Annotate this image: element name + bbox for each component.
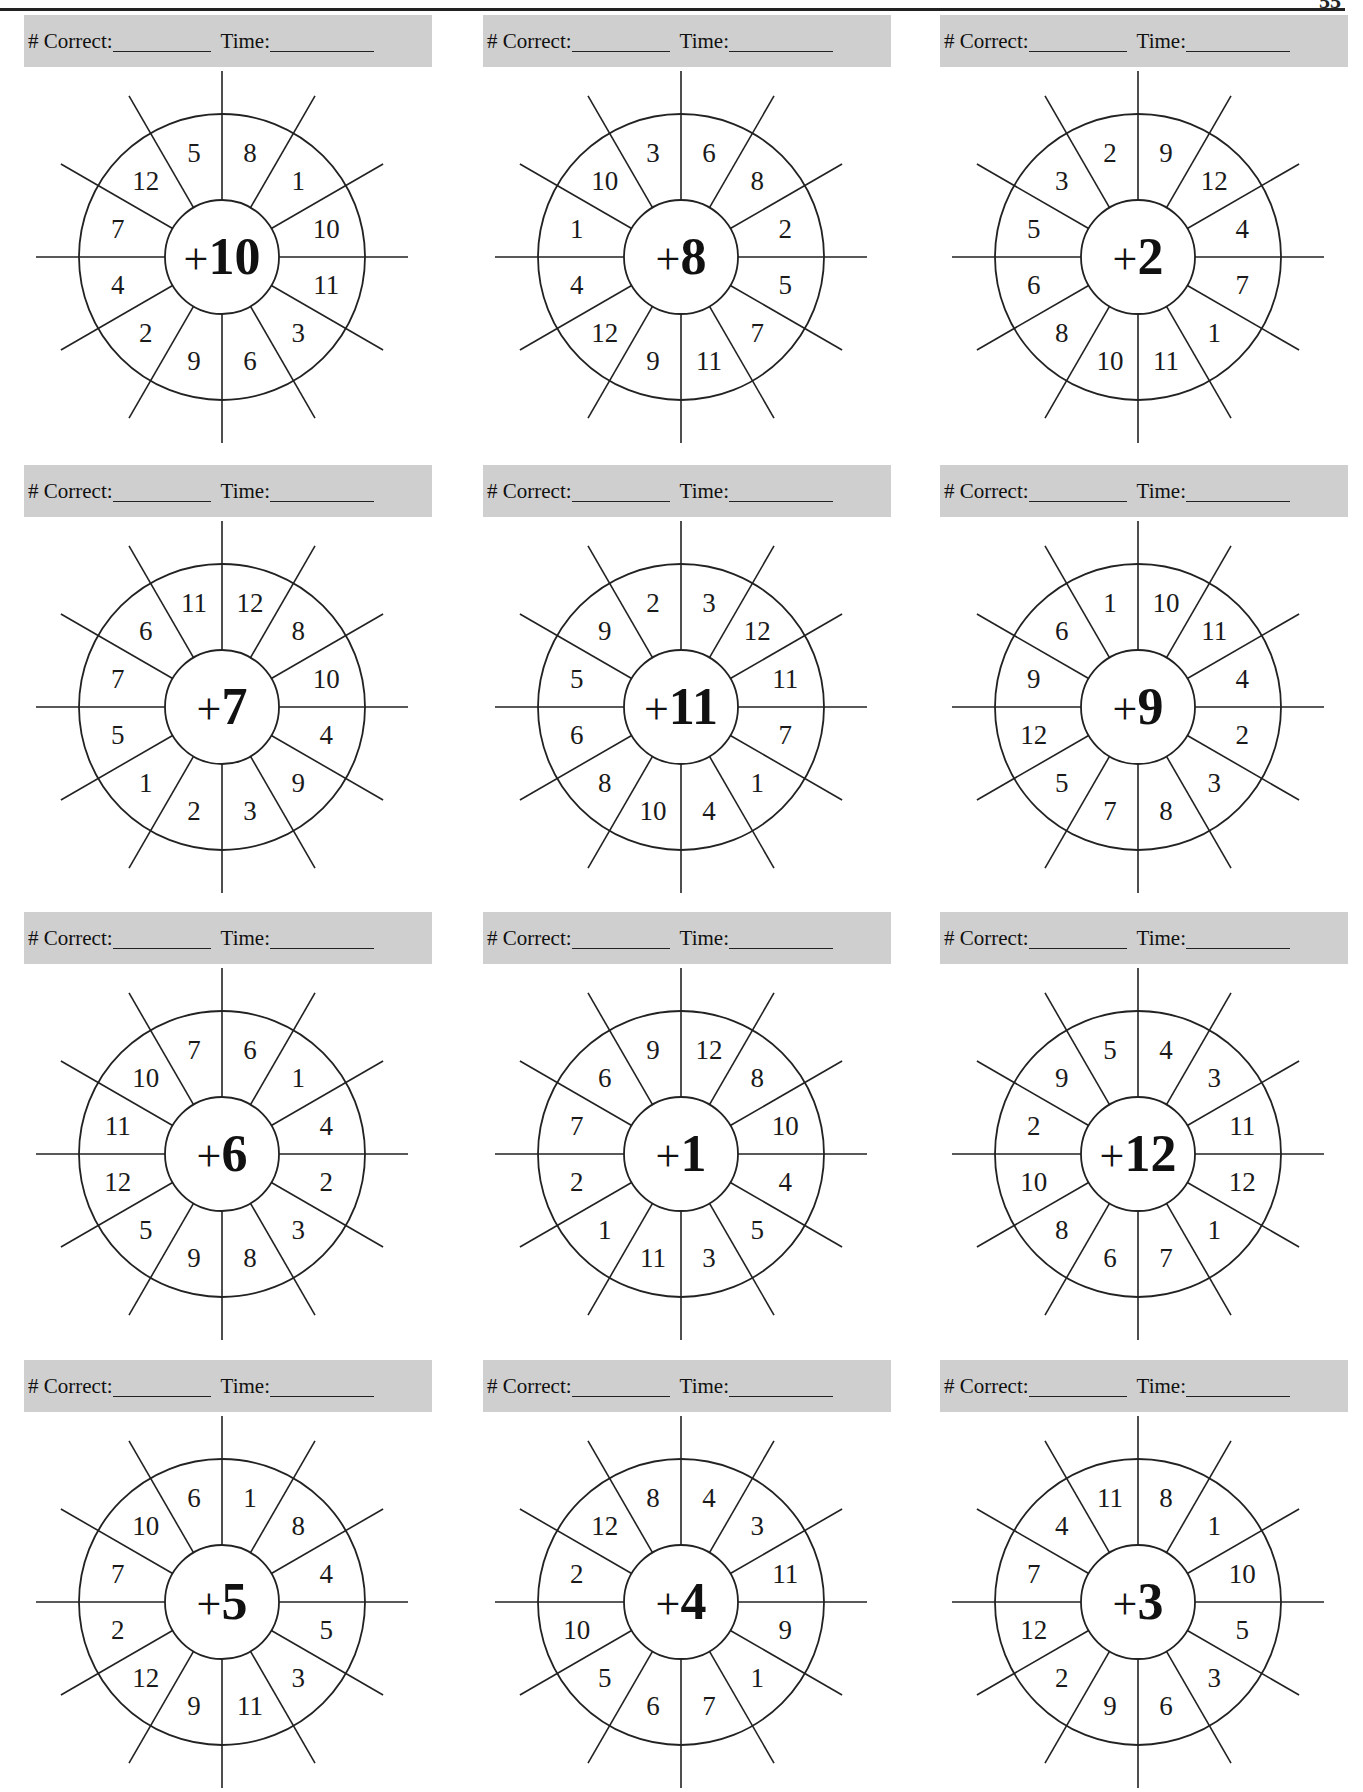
segment-number: 5: [187, 138, 201, 168]
segment-number: 5: [1055, 768, 1069, 798]
addition-wheel: 431191765102128+4: [483, 1412, 903, 1792]
segment-number: 5: [1236, 1615, 1250, 1645]
time-answer-blank[interactable]: [729, 31, 833, 52]
wheel-spoke: [710, 1441, 775, 1553]
center-addend-label: +3: [1113, 1573, 1164, 1630]
segment-number: 2: [570, 1167, 584, 1197]
correct-label: # Correct:: [944, 926, 1029, 951]
time-answer-blank[interactable]: [270, 31, 374, 52]
segment-number: 12: [132, 166, 159, 196]
correct-answer-blank[interactable]: [1029, 1376, 1127, 1397]
plus-sign: +: [1113, 1580, 1138, 1629]
segment-number: 11: [1153, 346, 1179, 376]
correct-answer-blank[interactable]: [572, 928, 670, 949]
correct-answer-blank[interactable]: [113, 1376, 211, 1397]
segment-number: 3: [702, 1243, 716, 1273]
segment-number: 6: [702, 138, 716, 168]
wheel-spoke: [710, 1203, 775, 1315]
segment-number: 8: [1055, 318, 1069, 348]
correct-answer-blank[interactable]: [113, 928, 211, 949]
segment-number: 4: [1236, 214, 1250, 244]
correct-answer-blank[interactable]: [1029, 928, 1127, 949]
segment-number: 8: [243, 138, 257, 168]
segment-number: 6: [646, 1691, 660, 1721]
wheel-spoke: [710, 1651, 775, 1763]
score-header-bar: # Correct: Time:: [24, 1360, 432, 1412]
correct-answer-blank[interactable]: [1029, 481, 1127, 502]
segment-number: 9: [646, 346, 660, 376]
correct-answer-blank[interactable]: [572, 481, 670, 502]
segment-number: 10: [640, 796, 667, 826]
segment-number: 11: [696, 346, 722, 376]
addition-wheel: 614238951211107+6: [24, 964, 444, 1364]
correct-answer-blank[interactable]: [1029, 31, 1127, 52]
segment-number: 3: [1208, 1663, 1222, 1693]
time-answer-blank[interactable]: [270, 481, 374, 502]
segment-number: 7: [111, 664, 125, 694]
segment-number: 2: [1055, 1663, 1069, 1693]
segment-number: 6: [1103, 1243, 1117, 1273]
addend-number: 12: [1124, 1125, 1176, 1182]
time-answer-blank[interactable]: [1186, 31, 1290, 52]
plus-sign: +: [656, 1132, 681, 1181]
addition-wheel: 128104932157611+7: [24, 517, 444, 917]
wheel-spoke: [251, 306, 316, 418]
correct-answer-blank[interactable]: [113, 31, 211, 52]
plus-sign: +: [197, 685, 222, 734]
segment-number: 11: [313, 270, 339, 300]
wheel-spoke: [251, 756, 316, 868]
wheel-exercise-8: # Correct: Time: 128104531112769+1: [483, 912, 903, 1360]
time-answer-blank[interactable]: [729, 928, 833, 949]
wheel-spoke: [1167, 1651, 1232, 1763]
segment-number: 11: [237, 1691, 263, 1721]
correct-label: # Correct:: [28, 1374, 113, 1399]
segment-number: 11: [640, 1243, 666, 1273]
segment-number: 2: [570, 1559, 584, 1589]
time-answer-blank[interactable]: [729, 1376, 833, 1397]
segment-number: 10: [772, 1111, 799, 1141]
segment-number: 9: [598, 616, 612, 646]
time-answer-blank[interactable]: [1186, 1376, 1290, 1397]
addend-number: 7: [221, 678, 247, 735]
segment-number: 2: [1103, 138, 1117, 168]
correct-answer-blank[interactable]: [572, 31, 670, 52]
addition-wheel: 128104531112769+1: [483, 964, 903, 1364]
wheel-exercise-2: # Correct: Time: 682571191241103+8: [483, 15, 903, 463]
segment-number: 4: [1159, 1035, 1173, 1065]
segment-number: 4: [111, 270, 125, 300]
time-label: Time:: [221, 1374, 270, 1399]
correct-label: # Correct:: [944, 479, 1029, 504]
wheel-spoke: [251, 1203, 316, 1315]
score-header-bar: # Correct: Time:: [483, 1360, 891, 1412]
segment-number: 5: [320, 1615, 334, 1645]
time-label: Time:: [221, 29, 270, 54]
segment-number: 12: [695, 1035, 722, 1065]
time-answer-blank[interactable]: [270, 1376, 374, 1397]
center-addend-label: +6: [197, 1125, 248, 1182]
segment-number: 4: [702, 796, 716, 826]
center-addend-label: +5: [197, 1573, 248, 1630]
segment-number: 4: [320, 1111, 334, 1141]
plus-sign: +: [656, 1580, 681, 1629]
segment-number: 7: [111, 214, 125, 244]
correct-answer-blank[interactable]: [572, 1376, 670, 1397]
segment-number: 7: [702, 1691, 716, 1721]
score-header-bar: # Correct: Time:: [940, 912, 1348, 964]
addend-number: 2: [1137, 228, 1163, 285]
time-label: Time:: [680, 1374, 729, 1399]
time-label: Time:: [680, 479, 729, 504]
segment-number: 11: [105, 1111, 131, 1141]
time-answer-blank[interactable]: [729, 481, 833, 502]
segment-number: 2: [1027, 1111, 1041, 1141]
time-answer-blank[interactable]: [1186, 481, 1290, 502]
addend-number: 10: [208, 228, 260, 285]
segment-number: 9: [779, 1615, 793, 1645]
segment-number: 9: [1159, 138, 1173, 168]
correct-answer-blank[interactable]: [113, 481, 211, 502]
time-answer-blank[interactable]: [1186, 928, 1290, 949]
segment-number: 1: [1208, 318, 1222, 348]
score-header-bar: # Correct: Time:: [24, 465, 432, 517]
segment-number: 6: [187, 1483, 201, 1513]
time-answer-blank[interactable]: [270, 928, 374, 949]
segment-number: 1: [292, 166, 306, 196]
